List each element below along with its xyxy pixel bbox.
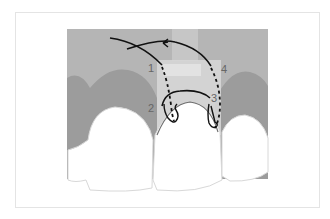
label-point-2: 2: [148, 102, 154, 114]
flap-inner: [163, 64, 201, 76]
label-point-3: 3: [211, 92, 217, 104]
label-point-1: 1: [148, 62, 154, 74]
suture-diagram: 1 2 3 4: [0, 0, 330, 219]
label-point-4: 4: [221, 63, 227, 75]
tooth-right-lateral: [222, 115, 268, 181]
